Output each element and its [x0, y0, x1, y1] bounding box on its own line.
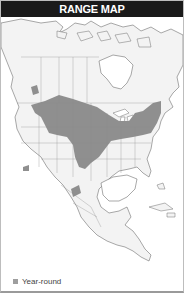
legend-label-year-round: Year-round — [22, 277, 61, 286]
map-legend: Year-round — [13, 277, 61, 286]
north-america-map — [1, 17, 183, 262]
caribbean-islands — [149, 183, 175, 217]
range-map-card: RANGE MAP — [0, 0, 184, 293]
year-round-swatch — [13, 279, 18, 284]
card-title: RANGE MAP — [1, 1, 183, 17]
